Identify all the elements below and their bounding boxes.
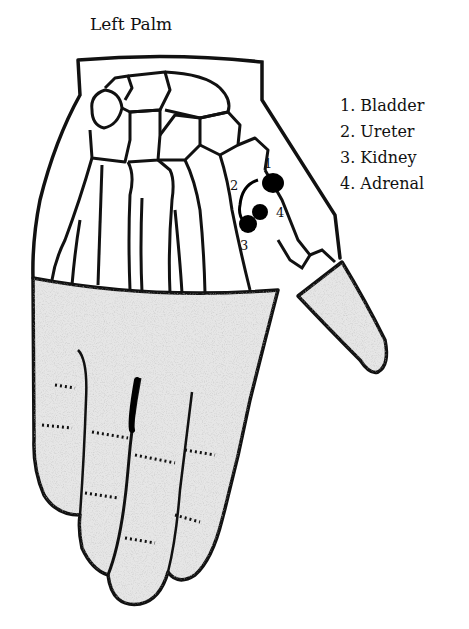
metacarpal-bones <box>52 155 335 293</box>
point-label-2: 2 <box>230 178 238 193</box>
bladder-point <box>262 173 284 193</box>
fingers-region <box>33 278 278 604</box>
point-label-1: 1 <box>264 156 272 171</box>
wrist-outline <box>33 56 340 278</box>
hand-illustration: 1 2 3 4 <box>0 0 469 629</box>
point-label-3: 3 <box>240 238 248 253</box>
adrenal-point <box>252 204 268 220</box>
carpal-bones <box>90 72 268 170</box>
thumb <box>298 262 386 373</box>
point-label-4: 4 <box>276 205 284 220</box>
kidney-point <box>239 215 257 233</box>
